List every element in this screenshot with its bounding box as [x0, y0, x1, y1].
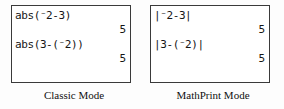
calculator-result-row: 5: [12, 23, 130, 37]
result-value: 5: [119, 23, 126, 37]
result-value: 5: [119, 52, 126, 66]
panel-classic-mode: abs(⁻2-3) 5 abs(3-(⁻2)) 5 Classic Mode: [7, 0, 141, 109]
calculator-lines-mathprint: |⁻2-3| 5 |3-(⁻2)| 5: [151, 8, 269, 66]
result-value: 5: [258, 52, 265, 66]
result-value: 5: [258, 23, 265, 37]
calculator-entry-row: |3-(⁻2)|: [151, 37, 269, 52]
expression-text: abs(3-(⁻2)): [15, 37, 83, 52]
calculator-lines-classic: abs(⁻2-3) 5 abs(3-(⁻2)) 5: [12, 8, 130, 66]
expression-text: |⁻2-3|: [154, 8, 191, 23]
calculator-result-row: 5: [12, 52, 130, 66]
calculator-result-row: 5: [151, 52, 269, 66]
panel-mathprint-mode: |⁻2-3| 5 |3-(⁻2)| 5 MathPrint Mode: [146, 0, 280, 109]
expression-text: |3-(⁻2)|: [154, 37, 204, 52]
panel-caption-classic: Classic Mode: [7, 88, 141, 102]
calculator-result-row: 5: [151, 23, 269, 37]
panel-caption-mathprint: MathPrint Mode: [146, 88, 280, 102]
expression-text: abs(⁻2-3): [15, 8, 71, 23]
figure-container: abs(⁻2-3) 5 abs(3-(⁻2)) 5 Classic Mode |…: [0, 0, 284, 109]
calculator-screen-mathprint: |⁻2-3| 5 |3-(⁻2)| 5: [150, 5, 270, 83]
calculator-entry-row: abs(3-(⁻2)): [12, 37, 130, 52]
calculator-entry-row: |⁻2-3|: [151, 8, 269, 23]
calculator-entry-row: abs(⁻2-3): [12, 8, 130, 23]
calculator-screen-classic: abs(⁻2-3) 5 abs(3-(⁻2)) 5: [11, 5, 131, 83]
